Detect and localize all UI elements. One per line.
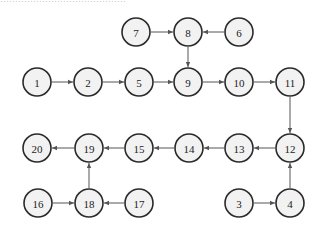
node-3: 3 (225, 189, 253, 217)
node-label: 12 (285, 143, 296, 155)
node-label: 17 (134, 198, 146, 210)
node-label: 19 (84, 143, 96, 155)
node-6: 6 (225, 18, 253, 46)
node-label: 1 (34, 77, 40, 89)
node-label: 16 (33, 198, 45, 210)
node-12: 12 (276, 134, 304, 162)
node-label: 3 (236, 198, 242, 210)
node-20: 20 (23, 134, 51, 162)
node-15: 15 (125, 134, 153, 162)
node-label: 9 (185, 77, 191, 89)
node-label: 10 (234, 77, 246, 89)
node-14: 14 (175, 134, 203, 162)
node-5: 5 (125, 68, 153, 96)
node-layer: 7861259101120191514131216181734 (23, 18, 304, 217)
node-label: 15 (134, 143, 146, 155)
node-16: 16 (24, 189, 52, 217)
node-7: 7 (122, 18, 150, 46)
node-1: 1 (23, 68, 51, 96)
node-label: 5 (136, 77, 142, 89)
node-18: 18 (75, 189, 103, 217)
node-19: 19 (75, 134, 103, 162)
node-label: 11 (285, 77, 296, 89)
node-label: 8 (185, 27, 191, 39)
edge-layer (52, 32, 290, 203)
node-17: 17 (125, 189, 153, 217)
node-label: 6 (236, 27, 242, 39)
node-label: 14 (184, 143, 196, 155)
node-label: 7 (133, 27, 139, 39)
process-network-diagram: 7861259101120191514131216181734 (0, 0, 319, 229)
node-label: 4 (287, 198, 293, 210)
node-label: 20 (32, 143, 44, 155)
node-9: 9 (174, 68, 202, 96)
node-2: 2 (74, 68, 102, 96)
node-8: 8 (174, 18, 202, 46)
node-label: 2 (85, 77, 91, 89)
node-10: 10 (225, 68, 253, 96)
node-label: 18 (84, 198, 96, 210)
node-label: 13 (234, 143, 246, 155)
node-13: 13 (225, 134, 253, 162)
node-4: 4 (276, 189, 304, 217)
node-11: 11 (276, 68, 304, 96)
